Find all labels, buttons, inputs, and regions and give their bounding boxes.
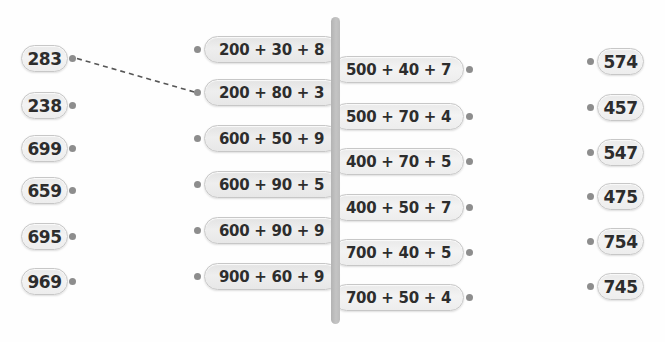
connection-dot-right-4[interactable] xyxy=(587,193,594,200)
number-pill-left-1[interactable]: 283 xyxy=(21,45,68,72)
connection-dot-left-6[interactable] xyxy=(69,278,76,285)
number-pill-left-5[interactable]: 695 xyxy=(21,223,68,250)
expression-pill-midleft-6[interactable]: 900 + 60 + 9 xyxy=(204,263,339,290)
connection-dot-midleft-1[interactable] xyxy=(194,46,201,53)
connection-dot-midright-2[interactable] xyxy=(466,113,473,120)
number-pill-right-5[interactable]: 754 xyxy=(597,228,644,255)
connection-dot-right-3[interactable] xyxy=(587,149,594,156)
connection-dot-left-4[interactable] xyxy=(69,187,76,194)
connection-dot-right-2[interactable] xyxy=(587,104,594,111)
number-pill-left-3[interactable]: 699 xyxy=(21,135,68,162)
connection-dot-midright-3[interactable] xyxy=(466,158,473,165)
matching-worksheet: 283 238 699 659 695 969 200 + 30 + 8 200… xyxy=(0,0,665,342)
connection-dot-midleft-6[interactable] xyxy=(194,273,201,280)
expression-pill-midright-4[interactable]: 400 + 50 + 7 xyxy=(333,194,464,221)
number-pill-left-6[interactable]: 969 xyxy=(21,268,68,295)
connection-dot-left-2[interactable] xyxy=(69,102,76,109)
expression-pill-midleft-5[interactable]: 600 + 90 + 9 xyxy=(204,217,339,244)
number-pill-right-4[interactable]: 475 xyxy=(597,183,644,210)
expression-pill-midleft-1[interactable]: 200 + 30 + 8 xyxy=(204,36,339,63)
expression-pill-midright-1[interactable]: 500 + 40 + 7 xyxy=(333,56,464,83)
connection-dot-left-1[interactable] xyxy=(69,55,76,62)
expression-pill-midright-3[interactable]: 400 + 70 + 5 xyxy=(333,148,464,175)
number-pill-left-4[interactable]: 659 xyxy=(21,177,68,204)
connection-dot-left-5[interactable] xyxy=(69,233,76,240)
connection-dot-midright-4[interactable] xyxy=(466,204,473,211)
connection-dot-right-5[interactable] xyxy=(587,238,594,245)
number-pill-right-6[interactable]: 745 xyxy=(597,273,644,300)
connection-dot-left-3[interactable] xyxy=(69,145,76,152)
connection-dot-midleft-4[interactable] xyxy=(194,181,201,188)
connection-dot-midleft-3[interactable] xyxy=(194,135,201,142)
connection-dot-right-6[interactable] xyxy=(587,283,594,290)
divider-bar xyxy=(331,17,340,324)
connection-dot-midright-5[interactable] xyxy=(466,249,473,256)
connection-dot-midright-6[interactable] xyxy=(466,294,473,301)
connection-dot-midleft-5[interactable] xyxy=(194,227,201,234)
connection-dot-midleft-2[interactable] xyxy=(194,89,201,96)
expression-pill-midleft-4[interactable]: 600 + 90 + 5 xyxy=(204,171,339,198)
expression-pill-midright-5[interactable]: 700 + 40 + 5 xyxy=(333,239,464,266)
expression-pill-midright-2[interactable]: 500 + 70 + 4 xyxy=(333,103,464,130)
number-pill-right-3[interactable]: 547 xyxy=(597,139,644,166)
expression-pill-midright-6[interactable]: 700 + 50 + 4 xyxy=(333,284,464,311)
expression-pill-midleft-2[interactable]: 200 + 80 + 3 xyxy=(204,79,339,106)
connection-dot-right-1[interactable] xyxy=(587,58,594,65)
expression-pill-midleft-3[interactable]: 600 + 50 + 9 xyxy=(204,125,339,152)
connection-dot-midright-1[interactable] xyxy=(466,66,473,73)
number-pill-right-1[interactable]: 574 xyxy=(597,48,644,75)
number-pill-right-2[interactable]: 457 xyxy=(597,94,644,121)
number-pill-left-2[interactable]: 238 xyxy=(21,92,68,119)
